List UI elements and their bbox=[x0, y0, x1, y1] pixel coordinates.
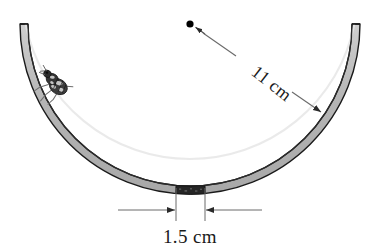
width-dimension: 1.5 cm bbox=[118, 188, 262, 247]
bowl-cross-section bbox=[20, 24, 360, 194]
bowl-diagram-figure: 11 cm 1.5 cm bbox=[0, 0, 380, 251]
radius-label: 11 cm bbox=[248, 61, 296, 105]
radius-leader-upper bbox=[203, 33, 236, 56]
radius-dimension: 11 cm bbox=[186, 20, 321, 112]
diagram-canvas: 11 cm 1.5 cm bbox=[0, 0, 380, 251]
width-label: 1.5 cm bbox=[163, 226, 217, 247]
bowl-center-dot bbox=[186, 20, 193, 27]
bowl-inner-edge bbox=[28, 24, 352, 186]
